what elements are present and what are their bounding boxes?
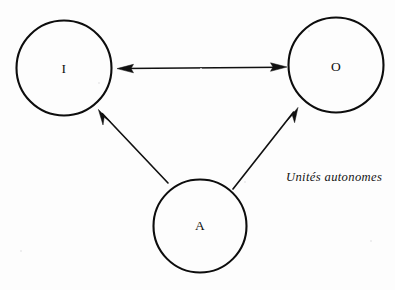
edge-i-o-line <box>123 67 281 68</box>
figure-canvas: I O A Unités autonomes <box>0 0 395 290</box>
edge-a-i-line <box>103 114 169 183</box>
edge-i-o-arrowhead-right <box>271 63 288 72</box>
node-o[interactable]: O <box>289 18 384 113</box>
edge-a-i-arrowhead <box>98 109 110 125</box>
node-i[interactable]: I <box>17 21 112 116</box>
node-i-label: I <box>62 61 67 76</box>
edge-a-i <box>98 109 168 183</box>
edge-i-o-arrowhead-left <box>117 64 134 73</box>
edge-i-o <box>117 63 287 73</box>
edge-a-o-arrowhead <box>287 107 298 122</box>
diagram-svg: I O A <box>0 0 395 290</box>
node-a-label: A <box>195 218 205 233</box>
node-a[interactable]: A <box>154 180 247 273</box>
edge-a-o-line <box>233 112 294 189</box>
node-o-label: O <box>331 59 341 74</box>
caption-unites-autonomes: Unités autonomes <box>286 171 382 184</box>
